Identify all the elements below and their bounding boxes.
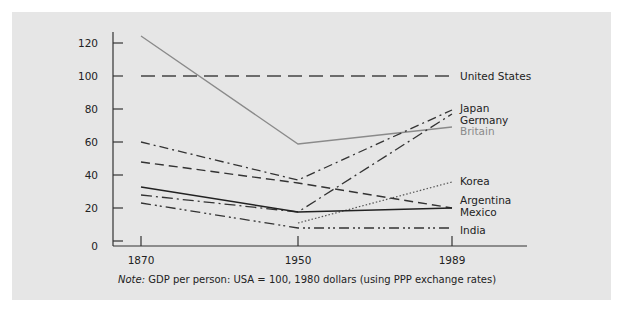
series-korea [298, 182, 452, 223]
series-japan [141, 114, 452, 212]
series-argentina [141, 162, 452, 208]
line-chart: 0 20 40 60 80 100 120 1870 1950 1989 Uni… [0, 0, 624, 312]
series-britain [141, 36, 452, 144]
label-mexico: Mexico [460, 206, 497, 218]
series-labels: United States Japan Germany Britain Kore… [459, 70, 531, 236]
label-japan: Japan [459, 102, 489, 114]
svg-text:1950: 1950 [285, 254, 312, 266]
y-ticks [113, 43, 123, 241]
svg-text:60: 60 [85, 136, 98, 148]
svg-text:80: 80 [85, 103, 98, 115]
label-india: India [460, 224, 486, 236]
label-britain: Britain [460, 125, 495, 137]
series-india [141, 203, 452, 228]
svg-text:100: 100 [78, 70, 98, 82]
note-text: GDP per person: USA = 100, 1980 dollars … [145, 274, 496, 285]
svg-text:1989: 1989 [439, 254, 466, 266]
svg-text:40: 40 [85, 169, 98, 181]
series-germany [141, 110, 452, 180]
label-united-states: United States [460, 70, 531, 82]
label-korea: Korea [460, 175, 490, 187]
label-argentina: Argentina [460, 194, 511, 206]
y-tick-labels: 0 20 40 60 80 100 120 [78, 37, 98, 252]
svg-text:20: 20 [85, 202, 98, 214]
svg-text:1870: 1870 [128, 254, 155, 266]
svg-text:0: 0 [91, 240, 98, 252]
chart-note: Note: GDP per person: USA = 100, 1980 do… [118, 274, 496, 285]
note-prefix: Note: [118, 274, 145, 285]
svg-text:120: 120 [78, 37, 98, 49]
x-ticks [141, 236, 452, 246]
x-tick-labels: 1870 1950 1989 [128, 254, 466, 266]
